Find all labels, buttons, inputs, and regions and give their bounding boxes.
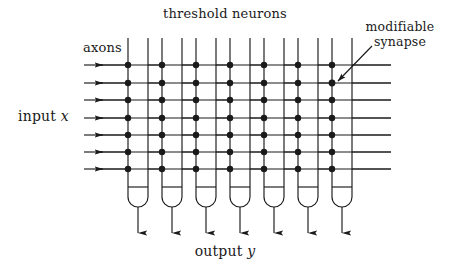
synapse-dot	[193, 97, 199, 103]
input-symbol-text: x	[61, 108, 69, 124]
modifiable-synapse-line-2: synapse	[374, 34, 426, 49]
synapse-dot	[159, 166, 165, 172]
synapse-dot	[227, 166, 233, 172]
synapse-dot	[125, 149, 131, 155]
output-prefix-text: output	[195, 243, 248, 259]
synapse-dot	[261, 166, 267, 172]
synapse-dot	[295, 115, 301, 121]
synapse-dot	[193, 149, 199, 155]
modifiable-synapse-line-1: modifiable	[366, 19, 435, 34]
synapse-dot	[295, 132, 301, 138]
synapse-dot-annotated	[329, 80, 336, 87]
synapse-dot	[193, 132, 199, 138]
synapse-dot	[125, 97, 131, 103]
threshold-neuron-diagram: threshold neurons axons input x output y…	[0, 0, 450, 272]
synapse-dot	[329, 149, 335, 155]
synapse-dot	[159, 115, 165, 121]
synapse-dot	[329, 132, 335, 138]
synapse-dot	[261, 62, 267, 68]
synapse-dot	[125, 62, 131, 68]
synapse-dot	[227, 115, 233, 121]
synapse-dot	[295, 62, 301, 68]
input-prefix-text: input	[18, 108, 61, 124]
synapse-dot	[295, 166, 301, 172]
synapse-dot	[227, 149, 233, 155]
synapse-dot	[329, 62, 335, 68]
synapse-dot	[159, 80, 165, 86]
synapse-dot	[329, 97, 335, 103]
synapse-dot	[261, 149, 267, 155]
synapse-dot	[329, 166, 335, 172]
synapse-dot	[159, 149, 165, 155]
synapse-dot	[227, 132, 233, 138]
synapse-dot	[125, 132, 131, 138]
synapse-dot	[295, 80, 301, 86]
label-axons: axons	[83, 40, 122, 55]
synapse-dot	[261, 132, 267, 138]
label-input-x: input x	[18, 108, 69, 125]
synapse-dot	[125, 115, 131, 121]
synapse-dot	[159, 97, 165, 103]
synapse-dot	[227, 97, 233, 103]
label-output-y: output y	[0, 243, 450, 260]
synapse-dot	[295, 149, 301, 155]
synapse-dot	[227, 80, 233, 86]
synapse-dot	[193, 166, 199, 172]
synapse-dot	[261, 97, 267, 103]
synapse-dot	[261, 115, 267, 121]
synapse-dot	[227, 62, 233, 68]
synapse-dot	[261, 80, 267, 86]
synapse-dot	[193, 115, 199, 121]
synapse-dot	[193, 62, 199, 68]
synapse-dot	[125, 166, 131, 172]
synapse-dot	[125, 80, 131, 86]
synapse-dot	[159, 132, 165, 138]
synapse-dot	[159, 62, 165, 68]
synapse-dot	[329, 115, 335, 121]
output-symbol-text: y	[247, 243, 255, 259]
synapse-dot	[295, 97, 301, 103]
label-modifiable-synapse: modifiablesynapse	[352, 20, 448, 50]
synapse-dot	[193, 80, 199, 86]
